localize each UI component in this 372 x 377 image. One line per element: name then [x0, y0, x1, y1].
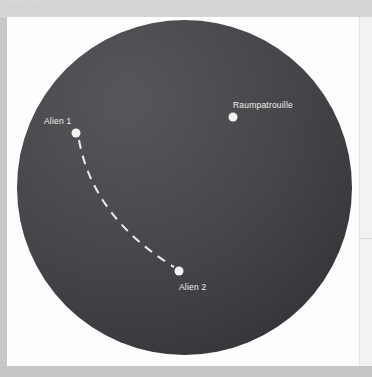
faint-header-text: KAPITEL: [8, 1, 48, 10]
marker-label-alien-1: Alien 1: [44, 116, 71, 126]
scan-top-band: KAPITEL: [0, 0, 372, 17]
marker-raumpatrouille[interactable]: [229, 113, 238, 122]
marker-label-raumpatrouille: Raumpatrouille: [233, 100, 293, 110]
scanned-page: KAPITEL Alien 1 Alien 2 Raumpatrouille: [0, 0, 372, 377]
orbit-diagram: Alien 1 Alien 2 Raumpatrouille: [7, 17, 359, 366]
planet-disc: [17, 20, 352, 355]
margin-rule-line: [360, 238, 372, 239]
marker-label-alien-2: Alien 2: [179, 282, 206, 292]
scan-bottom-band: [0, 366, 372, 377]
marker-alien-2[interactable]: [175, 267, 184, 276]
paper-sheet: Alien 1 Alien 2 Raumpatrouille: [7, 17, 360, 366]
page-right-margin: [360, 17, 372, 366]
marker-alien-1[interactable]: [72, 129, 81, 138]
